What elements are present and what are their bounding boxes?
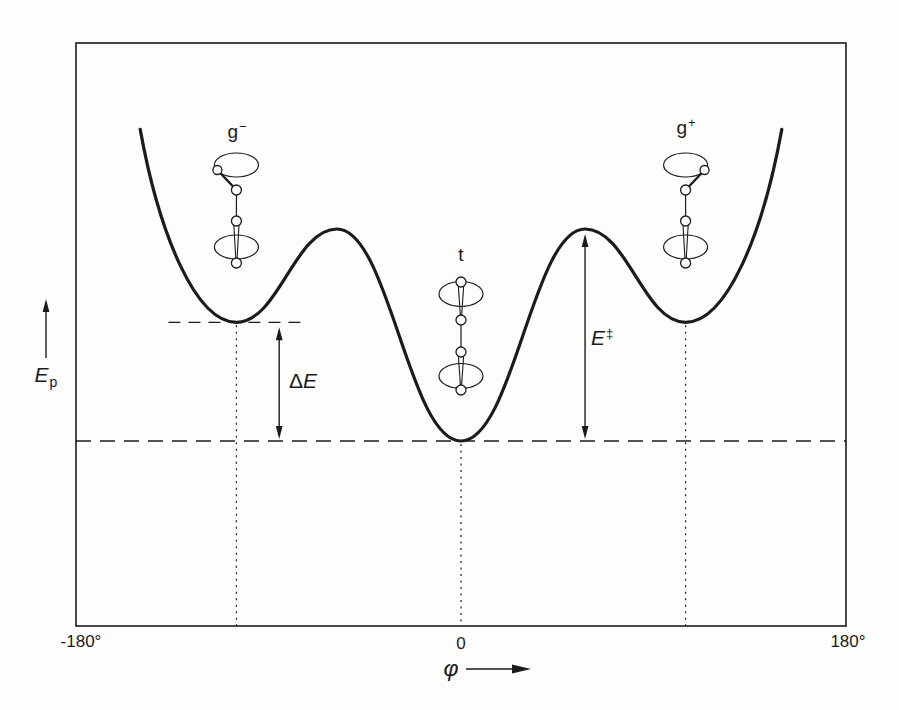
trans-label: t xyxy=(458,245,463,264)
delta-symbol: Δ xyxy=(289,369,303,392)
gauche-plus-label: g+ xyxy=(676,118,695,137)
structure-g-minus xyxy=(213,153,259,268)
trans-base: t xyxy=(458,244,463,265)
structure-trans xyxy=(439,277,483,395)
x-tick-neg-180: -180° xyxy=(61,633,102,650)
y-axis-arrow xyxy=(43,299,50,358)
gauche-plus-base: g xyxy=(676,117,687,138)
energy-diagram-figure: Ep ΔE E‡ g− t g+ -180° 0 180° φ xyxy=(0,0,899,710)
barrier-superscript: ‡ xyxy=(606,326,613,341)
x-tick-0: 0 xyxy=(456,635,465,652)
y-axis-label: Ep xyxy=(35,364,58,385)
structure-g-plus xyxy=(664,153,710,268)
gauche-plus-superscript: + xyxy=(688,115,696,130)
barrier-annotation: E‡ xyxy=(591,327,613,348)
delta-e-symbol: E xyxy=(303,369,317,392)
phi-axis-label: φ xyxy=(443,657,458,680)
gauche-minus-label: g− xyxy=(227,122,246,141)
energy-curve-plot xyxy=(0,0,899,710)
barrier-arrow xyxy=(582,234,589,439)
delta-e-annotation: ΔE xyxy=(289,370,317,391)
barrier-symbol: E xyxy=(591,326,605,349)
gauche-minus-superscript: − xyxy=(239,119,247,134)
gauche-minus-base: g xyxy=(227,121,238,142)
x-axis-arrow xyxy=(466,665,531,674)
y-axis-subscript: p xyxy=(50,374,58,390)
delta-e-arrow xyxy=(276,327,283,439)
y-axis-symbol: E xyxy=(35,363,49,386)
x-tick-180: 180° xyxy=(830,633,865,650)
